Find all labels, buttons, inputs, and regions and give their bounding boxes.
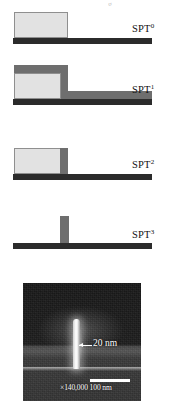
stage-label-spt2: SPT2 <box>132 159 154 170</box>
stage-label-exponent: 0 <box>151 22 155 30</box>
stage-label-exponent: 1 <box>151 83 155 91</box>
sem-scale-bar <box>90 379 130 382</box>
resist-core-block <box>14 148 61 174</box>
spt-process-figure: g SPT0 SPT1 SPT2 SPT3 20 nm <box>0 0 187 415</box>
stage-label-spt0: SPT0 <box>132 23 154 34</box>
stage-label-spt3: SPT3 <box>132 229 154 240</box>
stage-label-text: SPT <box>132 229 151 240</box>
stage-spt2: SPT2 <box>0 128 187 196</box>
stage-label-spt1: SPT1 <box>132 84 154 95</box>
film-sidewall-right <box>60 65 68 99</box>
resist-core-block <box>14 12 68 38</box>
substrate-bar <box>13 99 152 105</box>
substrate-bar <box>13 174 152 180</box>
substrate-bar <box>13 38 152 44</box>
substrate-bar <box>13 243 152 249</box>
freestanding-spacer <box>60 216 69 243</box>
stage-spt0: SPT0 <box>0 0 187 58</box>
stage-label-exponent: 2 <box>151 158 155 166</box>
resist-core-block <box>14 73 61 99</box>
sem-micrograph: 20 nm ×140,000 100 nm <box>23 283 141 401</box>
stage-spt3: SPT3 <box>0 196 187 260</box>
stage-label-text: SPT <box>132 23 151 34</box>
dimension-arrow-icon <box>79 345 92 346</box>
stage-spt1: SPT1 <box>0 58 187 128</box>
sidewall-spacer <box>60 148 68 174</box>
stage-label-text: SPT <box>132 159 151 170</box>
sem-scale-caption: ×140,000 100 nm <box>60 383 112 392</box>
stage-label-exponent: 3 <box>151 228 155 236</box>
stage-label-text: SPT <box>132 84 151 95</box>
sem-dimension-label: 20 nm <box>93 338 117 348</box>
